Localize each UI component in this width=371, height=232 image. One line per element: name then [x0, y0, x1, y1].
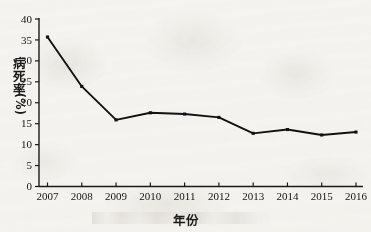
data-point-marker	[320, 133, 323, 136]
x-axis: 2007200820092010201120122013201420152016	[37, 183, 368, 203]
data-point-marker	[149, 111, 152, 114]
x-tick-label: 2009	[105, 190, 128, 202]
y-tick-label: 5	[27, 159, 33, 171]
data-point-markers	[46, 35, 358, 136]
x-tick-label: 2010	[139, 190, 162, 202]
y-tick-label: 40	[21, 13, 33, 25]
data-point-marker	[252, 132, 255, 135]
y-axis-title: 病 死 率 (%)	[8, 58, 30, 110]
data-point-marker	[80, 85, 83, 88]
y-tick-label: 0	[27, 180, 33, 192]
x-tick-label: 2013	[242, 190, 265, 202]
x-tick-label: 2007	[37, 190, 60, 202]
x-tick-label: 2011	[174, 190, 196, 202]
y-tick-label: 35	[21, 34, 33, 46]
y-tick-label: 15	[21, 117, 33, 129]
y-axis-unit: (%)	[13, 93, 25, 115]
data-point-marker	[354, 131, 357, 134]
x-tick-label: 2016	[345, 190, 368, 202]
x-axis-title: 年份	[0, 210, 371, 229]
data-series-line	[48, 37, 357, 135]
data-point-marker	[46, 35, 49, 38]
data-point-marker	[286, 128, 289, 131]
data-point-marker	[115, 118, 118, 121]
x-tick-label: 2008	[71, 190, 94, 202]
x-tick-label: 2012	[208, 190, 230, 202]
chart-screenshot: 0510152025303540 20072008200920102011201…	[0, 0, 371, 232]
data-point-marker	[217, 116, 220, 119]
x-tick-label: 2015	[311, 190, 334, 202]
line-chart-plot: 0510152025303540 20072008200920102011201…	[0, 0, 371, 232]
y-tick-label: 10	[21, 138, 33, 150]
data-point-marker	[183, 113, 186, 116]
x-tick-label: 2014	[276, 190, 299, 202]
